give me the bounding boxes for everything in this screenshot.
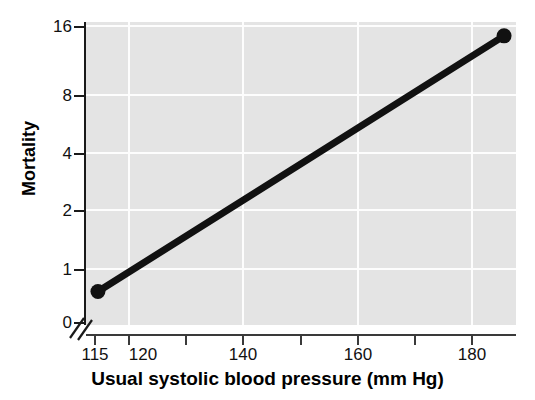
x-tick-mark-115 [94,336,96,345]
x-tick-label-180: 180 [458,346,486,363]
data-series-line [86,22,516,325]
y-tick-label-8: 8 [42,87,72,104]
series-line-segment [98,36,504,292]
x-tick-mark-130 [185,336,187,345]
x-tick-label-160: 160 [344,346,372,363]
x-tick-label-115: 115 [81,346,108,363]
x-tick-mark-180 [471,336,473,345]
chart-figure: 16 8 4 2 1 0 115 120 140 160 180 Mortali… [0,0,535,400]
data-point-marker-left [90,284,105,299]
y-tick-label-16: 16 [42,18,72,35]
y-tick-label-1: 1 [42,261,72,278]
x-axis-title: Usual systolic blood pressure (mm Hg) [0,368,535,390]
y-tick-label-4: 4 [42,145,72,162]
x-tick-label-140: 140 [229,346,257,363]
plot-area [86,22,516,325]
x-tick-mark-170 [414,336,416,345]
y-tick-mark-16 [74,26,84,28]
x-tick-label-120: 120 [129,346,157,363]
y-tick-mark-1 [74,269,84,271]
y-tick-mark-8 [74,95,84,97]
x-tick-mark-150 [300,336,302,345]
y-axis-line [84,22,86,325]
data-point-marker-right [497,28,512,43]
y-tick-mark-4 [74,153,84,155]
y-axis-title: Mortality [19,104,40,214]
y-tick-label-2: 2 [42,202,72,219]
x-tick-mark-140 [242,336,244,345]
x-tick-mark-160 [357,336,359,345]
y-tick-mark-2 [74,210,84,212]
x-tick-mark-120 [128,336,130,345]
